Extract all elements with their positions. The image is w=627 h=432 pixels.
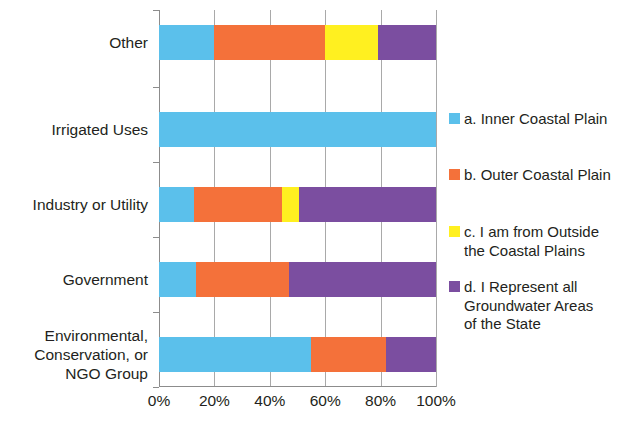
bar-segment xyxy=(386,337,436,372)
y-axis-label-irrigated-uses: Irrigated Uses xyxy=(0,90,148,170)
bar-row xyxy=(159,25,436,60)
y-axis-tick-mark xyxy=(153,162,159,163)
y-axis-tick-mark xyxy=(153,237,159,238)
bar-row xyxy=(159,187,436,222)
legend-item-label: c. I am from Outside the Coastal Plains xyxy=(464,223,599,260)
x-axis-tick-label: 60% xyxy=(310,392,341,410)
legend-item: c. I am from Outside the Coastal Plains xyxy=(449,223,599,260)
legend-item: a. Inner Coastal Plain xyxy=(449,110,607,129)
y-axis-label-environmental-ngo-group: Environmental, Conservation, or NGO Grou… xyxy=(0,315,148,395)
bar-segment xyxy=(378,25,436,60)
bar-row xyxy=(159,112,436,147)
bar-segment xyxy=(159,262,196,297)
bar-segment xyxy=(282,187,299,222)
legend-item-label: d. I Represent all Groundwater Areas of … xyxy=(464,278,593,334)
bar-segment xyxy=(299,187,436,222)
y-axis-tick-mark xyxy=(153,387,159,388)
x-axis-tick-label: 20% xyxy=(199,392,230,410)
legend-item: b. Outer Coastal Plain xyxy=(449,166,611,185)
x-axis-tick-label: 80% xyxy=(365,392,396,410)
legend-swatch-icon xyxy=(449,226,460,237)
legend-item: d. I Represent all Groundwater Areas of … xyxy=(449,278,593,334)
bar-segment xyxy=(289,262,436,297)
legend-item-label: a. Inner Coastal Plain xyxy=(464,110,607,129)
bar-segment xyxy=(194,187,283,222)
y-axis-label-text: Environmental, Conservation, or NGO Grou… xyxy=(0,326,148,383)
legend-swatch-icon xyxy=(449,281,460,292)
x-axis-tick-label: 0% xyxy=(148,392,170,410)
x-axis-tick-label: 40% xyxy=(254,392,285,410)
bar-row xyxy=(159,337,436,372)
legend-item-label: b. Outer Coastal Plain xyxy=(464,166,611,185)
stacked-bar-chart: Other Irrigated Uses Industry or Utility… xyxy=(0,0,627,432)
x-axis-tick-label: 100% xyxy=(416,392,456,410)
bar-segment xyxy=(159,187,194,222)
x-axis-line xyxy=(159,386,436,387)
y-axis-label-text: Government xyxy=(0,270,148,289)
bar-segment xyxy=(159,337,311,372)
y-axis-label-government: Government xyxy=(0,240,148,320)
gridline xyxy=(436,10,437,387)
legend-swatch-icon xyxy=(449,113,460,124)
bar-segment xyxy=(159,25,214,60)
y-axis-tick-mark xyxy=(153,312,159,313)
bar-segment xyxy=(196,262,289,297)
y-axis-label-other: Other xyxy=(0,3,148,83)
y-axis-tick-mark xyxy=(153,10,159,11)
y-axis-label-text: Industry or Utility xyxy=(0,195,148,214)
plot-area xyxy=(159,10,436,387)
y-axis-label-text: Irrigated Uses xyxy=(0,120,148,139)
y-axis-tick-mark xyxy=(153,87,159,88)
legend-swatch-icon xyxy=(449,169,460,180)
bar-segment xyxy=(311,337,386,372)
bar-segment xyxy=(214,25,325,60)
y-axis-label-text: Other xyxy=(0,33,148,52)
y-axis-label-industry-or-utility: Industry or Utility xyxy=(0,165,148,245)
bar-segment xyxy=(159,112,436,147)
bar-segment xyxy=(325,25,378,60)
bar-row xyxy=(159,262,436,297)
